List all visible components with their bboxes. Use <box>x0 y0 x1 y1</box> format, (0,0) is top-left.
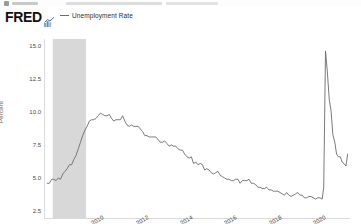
recession-band <box>53 39 86 219</box>
unemployment-rate-line-plot <box>45 39 350 219</box>
chart-area: Percent 15.012.510.07.55.02.5 2010201220… <box>0 27 361 224</box>
plot-canvas <box>44 39 350 219</box>
fred-chart-mark-icon <box>44 13 55 23</box>
toolbar-square-glyph <box>4 1 9 6</box>
y-tick-label: 7.5 <box>3 142 41 148</box>
toolbar-text-placeholder-secondary <box>166 2 218 5</box>
y-tick-label: 15.0 <box>3 43 41 49</box>
clipped-toolbar-strip <box>0 0 361 7</box>
y-axis-ticks: 15.012.510.07.55.02.5 <box>0 39 41 219</box>
toolbar-pill-glyph <box>12 2 38 5</box>
unemployment-rate-line <box>47 51 347 199</box>
chart-legend: Unemployment Rate <box>60 12 133 19</box>
y-tick-label: 2.5 <box>3 208 41 214</box>
chart-header: FRED Unemployment Rate <box>0 10 361 27</box>
legend-label-unemployment-rate: Unemployment Rate <box>72 12 133 19</box>
toolbar-text-placeholder <box>66 2 162 5</box>
y-tick-label: 12.5 <box>3 76 41 82</box>
y-tick-label: 5.0 <box>3 175 41 181</box>
legend-line-marker <box>60 15 69 16</box>
fred-chart-screenshot: FRED Unemployment Rate Percent 15.012.51… <box>0 0 361 224</box>
y-tick-label: 10.0 <box>3 109 41 115</box>
fred-logo: FRED <box>5 10 42 25</box>
x-axis-ticks: 201020122014201620182020 <box>44 221 350 224</box>
